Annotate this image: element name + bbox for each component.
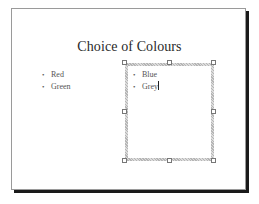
resize-handle-middle-left[interactable] bbox=[122, 109, 127, 114]
resize-handle-bottom-right[interactable] bbox=[211, 158, 216, 163]
bullet-text: Grey bbox=[142, 82, 158, 91]
resize-handle-bottom-center[interactable] bbox=[167, 158, 172, 163]
bullet-icon: • bbox=[133, 81, 135, 93]
bullet-icon: • bbox=[133, 69, 135, 81]
text-caret bbox=[158, 81, 159, 90]
left-text-placeholder[interactable]: • Red • Green bbox=[42, 69, 71, 93]
bullet-item[interactable]: • Red bbox=[42, 69, 71, 81]
bullet-icon: • bbox=[42, 69, 44, 81]
resize-handle-bottom-left[interactable] bbox=[122, 158, 127, 163]
right-bullet-list[interactable]: • Blue • Grey bbox=[133, 69, 159, 93]
resize-handle-top-center[interactable] bbox=[167, 60, 172, 65]
resize-handle-top-right[interactable] bbox=[211, 60, 216, 65]
editor-canvas: Choice of Colours • Red • Green • Blue •… bbox=[0, 0, 259, 204]
bullet-item[interactable]: • Blue bbox=[133, 69, 159, 81]
bullet-item[interactable]: • Grey bbox=[133, 81, 159, 93]
bullet-item[interactable]: • Green bbox=[42, 81, 71, 93]
right-text-placeholder-selected[interactable]: • Blue • Grey bbox=[125, 63, 214, 161]
bullet-text: Blue bbox=[142, 70, 157, 79]
bullet-text: Green bbox=[51, 82, 71, 91]
bullet-text: Red bbox=[51, 70, 64, 79]
resize-handle-middle-right[interactable] bbox=[211, 109, 216, 114]
slide[interactable]: Choice of Colours • Red • Green • Blue •… bbox=[11, 8, 246, 190]
slide-title[interactable]: Choice of Colours bbox=[12, 39, 247, 55]
bullet-icon: • bbox=[42, 81, 44, 93]
resize-handle-top-left[interactable] bbox=[122, 60, 127, 65]
